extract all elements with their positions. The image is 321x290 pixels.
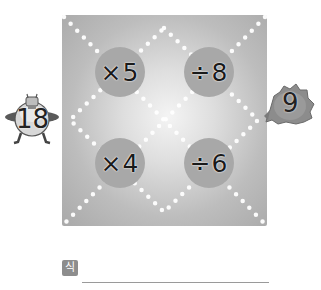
formula-label-badge: 식 — [62, 260, 78, 276]
operation-label: ÷6 — [190, 149, 229, 178]
operation-top-left[interactable]: ×5 — [95, 47, 145, 97]
operation-label: ÷8 — [190, 58, 229, 87]
operation-bottom-right[interactable]: ÷6 — [184, 138, 234, 188]
answer-input-line[interactable] — [82, 282, 269, 283]
robot-start-character: 18 — [2, 92, 62, 146]
puzzle-board: ×5 ÷8 ×4 ÷6 — [62, 15, 267, 226]
hedgehog-end-character: 9 — [262, 80, 318, 130]
start-number: 18 — [16, 104, 49, 134]
operation-label: ×4 — [101, 149, 140, 178]
operation-bottom-left[interactable]: ×4 — [95, 138, 145, 188]
end-number: 9 — [282, 88, 299, 118]
dotted-paths — [62, 15, 267, 226]
operation-label: ×5 — [101, 58, 140, 87]
operation-top-right[interactable]: ÷8 — [184, 47, 234, 97]
